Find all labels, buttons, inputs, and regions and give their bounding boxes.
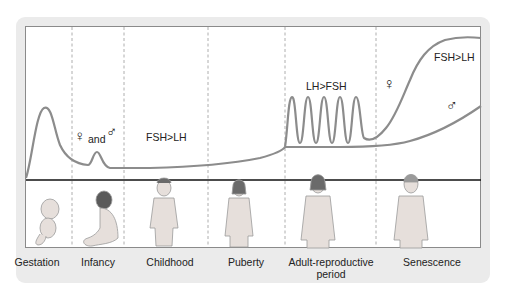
fetus-figure [36, 199, 59, 245]
stage-label-childhood: Childhood [146, 256, 193, 268]
stage-label-infancy: Infancy [81, 256, 115, 268]
infant-figure [84, 191, 118, 246]
figures [0, 0, 506, 291]
stage-label-adult-reproductive: Adult-reproductive period [286, 256, 376, 280]
puberty-figure [225, 180, 253, 247]
older-woman-figure [394, 175, 428, 249]
stage-label-gestation: Gestation [15, 256, 60, 268]
child-figure [150, 178, 178, 246]
adult-woman-figure [301, 175, 335, 248]
stage-label-puberty: Puberty [228, 256, 264, 268]
stage-label-senescence: Senescence [403, 256, 461, 268]
